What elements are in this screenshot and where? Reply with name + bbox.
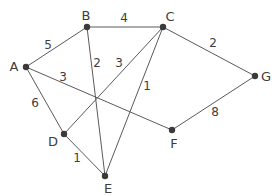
node-a (23, 64, 29, 70)
edges-layer (26, 27, 255, 176)
edge-weight-f-g: 8 (211, 105, 219, 119)
edge-weight-a-b: 5 (44, 38, 52, 52)
node-label-b: B (82, 8, 91, 23)
node-labels-layer: ABCGFDE (10, 8, 271, 196)
edge-f-g (172, 76, 255, 130)
edge-weight-c-g: 2 (209, 36, 217, 50)
edge-weight-c-e: 1 (143, 79, 151, 93)
edge-weight-c-d: 3 (115, 56, 123, 70)
edge-c-e (105, 27, 163, 176)
edge-weight-b-e: 2 (93, 56, 101, 70)
node-label-c: C (165, 9, 174, 24)
node-label-f: F (170, 136, 177, 151)
edge-weight-d-e: 1 (73, 151, 81, 165)
edge-weight-b-c: 4 (120, 11, 128, 25)
edge-c-g (163, 27, 255, 76)
node-d (61, 131, 67, 137)
edge-weight-a-f: 3 (59, 70, 67, 84)
node-e (102, 173, 108, 179)
edge-a-b (26, 27, 87, 67)
graph-diagram: 5426323118 ABCGFDE (0, 0, 277, 196)
node-label-a: A (10, 59, 19, 74)
weights-layer: 5426323118 (31, 11, 219, 165)
edge-weight-a-d: 6 (31, 96, 39, 110)
node-g (252, 73, 258, 79)
node-c (160, 24, 166, 30)
node-label-d: D (48, 134, 58, 149)
node-label-g: G (261, 69, 271, 84)
node-f (169, 127, 175, 133)
edge-a-f (26, 67, 172, 130)
node-b (84, 24, 90, 30)
node-label-e: E (104, 181, 112, 196)
edge-d-e (64, 134, 105, 176)
nodes-layer (23, 24, 258, 179)
edge-b-e (87, 27, 105, 176)
